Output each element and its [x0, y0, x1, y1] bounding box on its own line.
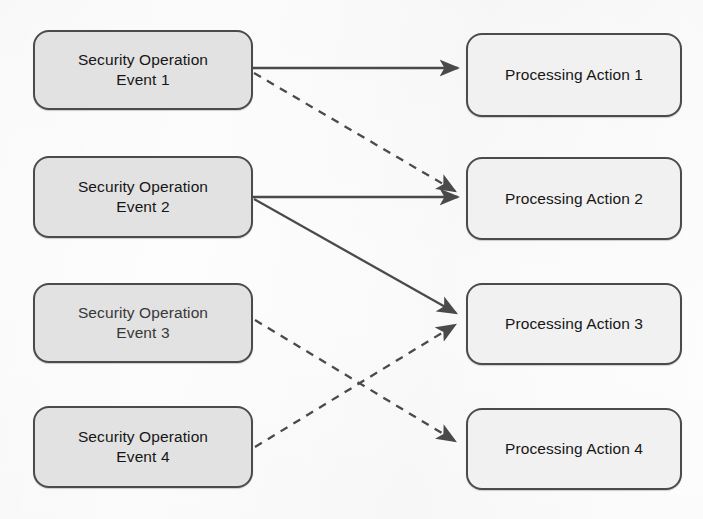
node-processing-action-4[interactable]: Processing Action 4 [466, 408, 682, 490]
node-security-operation-event-1[interactable]: Security Operation Event 1 [33, 30, 253, 110]
edge-event3-action4 [255, 320, 455, 441]
node-processing-action-1[interactable]: Processing Action 1 [466, 33, 682, 117]
edge-event2-action3 [254, 199, 456, 313]
node-label: Processing Action 4 [497, 439, 651, 459]
node-security-operation-event-4[interactable]: Security Operation Event 4 [33, 406, 253, 488]
node-label: Processing Action 1 [497, 65, 651, 85]
diagram-canvas: Security Operation Event 1 Security Oper… [0, 0, 703, 519]
node-label: Security Operation Event 4 [70, 427, 216, 467]
node-label: Security Operation Event 1 [70, 50, 216, 90]
node-label: Processing Action 2 [497, 189, 651, 209]
node-processing-action-2[interactable]: Processing Action 2 [466, 157, 682, 240]
edge-event1-action2 [254, 73, 455, 191]
node-label: Security Operation Event 3 [70, 303, 216, 343]
node-processing-action-3[interactable]: Processing Action 3 [466, 283, 682, 365]
node-label: Security Operation Event 2 [70, 177, 216, 217]
node-security-operation-event-3[interactable]: Security Operation Event 3 [33, 283, 253, 363]
edge-event4-action3 [255, 325, 455, 447]
node-security-operation-event-2[interactable]: Security Operation Event 2 [33, 156, 253, 238]
node-label: Processing Action 3 [497, 314, 651, 334]
